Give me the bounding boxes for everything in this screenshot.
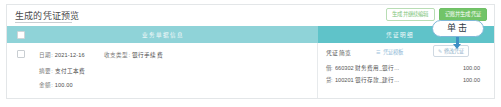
amount-value: 100.00 — [55, 82, 73, 88]
entry-direction: 贷: — [326, 76, 335, 84]
date-label: 日期: — [39, 52, 53, 58]
annotation-label: 单击 — [447, 24, 469, 33]
income-expense-type-field: 收支类型: 银行手续费 — [104, 51, 163, 59]
pencil-icon: ✎ — [438, 48, 442, 54]
amount-label: 金额: — [39, 82, 53, 88]
digest-label: 摘要: — [39, 68, 53, 74]
column-header-business-document: 业务单据信息 — [7, 31, 318, 39]
entry-direction: 借: — [326, 64, 335, 72]
table-header-row: 业务单据信息 凭证明细 — [7, 26, 494, 43]
voucher-preview-screen: 生成的凭证预览 生成并继续编辑 记账并生成凭证 业务单据信息 凭证明细 — [0, 0, 501, 107]
voucher-detail-cell: 凭证简览 ☰ 凭证模板 ✎ 修改凭证 借: 660302 财务费用_银行... … — [318, 43, 494, 98]
annotation-arrow — [456, 36, 459, 45]
entry-amount: 100.00 — [463, 65, 486, 71]
table-header-left: 业务单据信息 — [7, 26, 318, 43]
type-value: 银行手续费 — [132, 52, 163, 58]
voucher-entry-debit: 借: 660302 财务费用_银行... 100.00 — [326, 64, 486, 72]
entry-subject: 100201 银行存款_建行... — [335, 76, 463, 84]
edit-voucher-button[interactable]: ✎ 修改凭证 — [433, 45, 469, 57]
voucher-template-link[interactable]: ☰ 凭证模板 — [376, 48, 404, 56]
voucher-template-link-label: 凭证模板 — [383, 48, 404, 56]
list-icon: ☰ — [376, 49, 381, 55]
column-header-voucher-detail: 凭证明细 — [386, 31, 414, 39]
table-row: 日期: 2021-12-16 收支类型: 银行手续费 摘要: 支付工本费 金额:… — [7, 43, 494, 98]
date-value: 2021-12-16 — [55, 52, 85, 58]
generate-continue-edit-button[interactable]: 生成并继续编辑 — [386, 8, 434, 21]
annotation-callout: 单击 — [432, 20, 484, 37]
card-title-bar: 生成的凭证预览 生成并继续编辑 记账并生成凭证 — [7, 5, 494, 26]
digest-value: 支付工本费 — [55, 68, 86, 74]
title-underline — [15, 22, 72, 23]
type-label: 收支类型: — [104, 52, 130, 58]
date-field: 日期: 2021-12-16 — [39, 51, 85, 59]
voucher-preview-card: 生成的凭证预览 生成并继续编辑 记账并生成凭证 业务单据信息 凭证明细 — [6, 4, 495, 99]
entry-amount: 100.00 — [463, 77, 486, 83]
voucher-summary-label: 凭证简览 — [326, 48, 351, 57]
amount-field: 金额: 100.00 — [39, 81, 73, 89]
digest-field: 摘要: 支付工本费 — [39, 67, 85, 75]
row-select-checkbox[interactable] — [17, 50, 25, 58]
voucher-entry-credit: 贷: 100201 银行存款_建行... 100.00 — [326, 76, 486, 84]
business-document-cell: 日期: 2021-12-16 收支类型: 银行手续费 摘要: 支付工本费 金额:… — [7, 43, 318, 98]
page-title: 生成的凭证预览 — [15, 9, 79, 22]
entry-subject: 660302 财务费用_银行... — [335, 64, 463, 72]
